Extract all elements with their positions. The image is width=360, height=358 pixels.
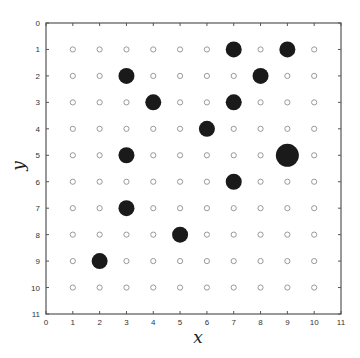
data-point (172, 227, 188, 243)
lattice-point (285, 179, 290, 184)
x-tick-label: 9 (285, 318, 290, 327)
lattice-point (312, 47, 317, 52)
y-axis-label: y (8, 161, 28, 172)
y-tick-label: 5 (36, 151, 41, 160)
lattice-point (70, 232, 75, 237)
data-point (226, 41, 242, 57)
y-tick-label: 9 (36, 257, 41, 266)
data-point (226, 94, 242, 110)
lattice-point (204, 179, 209, 184)
data-point (226, 174, 242, 190)
lattice-point (70, 47, 75, 52)
lattice-point (97, 47, 102, 52)
lattice-point (258, 126, 263, 131)
lattice-point (258, 153, 263, 158)
lattice-point (177, 206, 182, 211)
y-tick-label: 7 (36, 204, 41, 213)
lattice-point (151, 73, 156, 78)
x-tick-label: 5 (178, 318, 183, 327)
data-point (279, 41, 295, 57)
lattice-point (204, 153, 209, 158)
lattice-point (285, 126, 290, 131)
lattice-point (70, 206, 75, 211)
lattice-point (231, 258, 236, 263)
data-point (199, 121, 215, 137)
lattice-point (285, 206, 290, 211)
lattice-point (258, 100, 263, 105)
lattice-point (151, 285, 156, 290)
lattice-point (97, 179, 102, 184)
lattice-point (70, 73, 75, 78)
lattice-point (204, 100, 209, 105)
lattice-point (258, 258, 263, 263)
lattice-point (97, 100, 102, 105)
lattice-point (312, 73, 317, 78)
lattice-point (97, 126, 102, 131)
x-tick-label: 2 (97, 318, 102, 327)
lattice-point (258, 179, 263, 184)
x-tick-label: 7 (232, 318, 237, 327)
lattice-point (151, 232, 156, 237)
lattice-point (204, 258, 209, 263)
lattice-point (285, 258, 290, 263)
lattice-point (124, 126, 129, 131)
lattice-point (231, 285, 236, 290)
lattice-point (312, 206, 317, 211)
lattice-point (70, 258, 75, 263)
x-tick-label: 10 (310, 318, 319, 327)
x-tick-label: 1 (71, 318, 76, 327)
lattice-point (258, 232, 263, 237)
y-tick-label: 2 (36, 72, 41, 81)
lattice-point (70, 153, 75, 158)
lattice-point (97, 232, 102, 237)
lattice-point (204, 206, 209, 211)
lattice-point (177, 47, 182, 52)
lattice-point (285, 100, 290, 105)
lattice-point (177, 73, 182, 78)
lattice-point (124, 47, 129, 52)
plot-frame (46, 23, 341, 314)
lattice-point (204, 73, 209, 78)
lattice-point (124, 258, 129, 263)
lattice-point (312, 258, 317, 263)
y-tick-label: 0 (36, 19, 41, 28)
lattice-point (177, 153, 182, 158)
scatter-chart: 01234567891011 01234567891011 x y (0, 0, 360, 358)
y-tick-label: 10 (31, 284, 40, 293)
lattice-point (177, 179, 182, 184)
data-point (276, 144, 299, 167)
data-point (118, 68, 134, 84)
lattice-point (312, 126, 317, 131)
lattice-point (312, 285, 317, 290)
y-tick-label: 1 (36, 45, 41, 54)
lattice-point (151, 47, 156, 52)
y-tick-label: 11 (32, 310, 41, 319)
lattice-point (97, 153, 102, 158)
lattice-point (70, 100, 75, 105)
data-point (118, 200, 134, 216)
data-point (145, 94, 161, 110)
lattice-point (151, 153, 156, 158)
lattice-point (231, 206, 236, 211)
lattice-point (312, 179, 317, 184)
lattice-point (231, 153, 236, 158)
x-axis-label: x (193, 327, 203, 347)
lattice-point (124, 232, 129, 237)
lattice-point (285, 285, 290, 290)
lattice-point (312, 100, 317, 105)
lattice-point (231, 232, 236, 237)
x-tick-label: 3 (124, 318, 129, 327)
x-axis-ticks: 01234567891011 (44, 23, 346, 327)
lattice-point (70, 126, 75, 131)
x-tick-label: 11 (337, 318, 346, 327)
lattice-point (258, 206, 263, 211)
lattice-point (177, 100, 182, 105)
lattice-point (124, 285, 129, 290)
lattice-point (97, 73, 102, 78)
lattice-point (151, 126, 156, 131)
lattice-point (204, 285, 209, 290)
lattice-point (285, 73, 290, 78)
lattice-point (70, 179, 75, 184)
lattice-point (177, 258, 182, 263)
lattice-point (97, 285, 102, 290)
